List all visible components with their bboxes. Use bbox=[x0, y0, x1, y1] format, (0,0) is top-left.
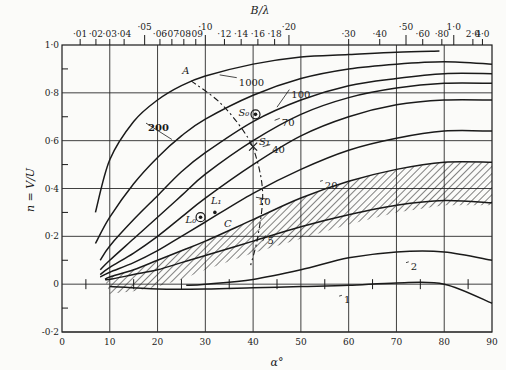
top-tick-label: ·12 bbox=[217, 29, 231, 39]
x-tick-label: 30 bbox=[200, 337, 212, 347]
x-tick-label: 80 bbox=[438, 337, 450, 347]
y-tick-label: 1·0 bbox=[45, 40, 60, 50]
x-axis-label: α° bbox=[271, 356, 284, 369]
top-tick-label: ·50 bbox=[399, 22, 414, 32]
top-tick-label: ·04 bbox=[117, 29, 132, 39]
marker-dot bbox=[213, 211, 217, 215]
x-tick-label: 50 bbox=[295, 337, 307, 347]
top-axis-label: B/λ bbox=[250, 4, 270, 17]
x-tick-label: 60 bbox=[343, 337, 355, 347]
label-leader bbox=[220, 75, 237, 78]
y-tick-label: 0·4 bbox=[45, 184, 60, 194]
x-tick-label: 0 bbox=[59, 337, 65, 347]
top-tick-label: ·14 bbox=[234, 29, 249, 39]
annotation-S₁: S₁ bbox=[259, 136, 270, 147]
top-tick-label: ·01 bbox=[73, 29, 87, 39]
label-leader bbox=[406, 262, 409, 263]
top-tick-label: ·10 bbox=[198, 22, 213, 32]
curve-label-5: 5 bbox=[267, 235, 273, 246]
top-tick-label: ·20 bbox=[282, 22, 297, 32]
top-tick-label: ·18 bbox=[267, 29, 282, 39]
top-tick-label: ·30 bbox=[342, 29, 357, 39]
curve-label-70: 70 bbox=[282, 117, 295, 128]
curve-label-100: 100 bbox=[291, 89, 310, 100]
label-leader bbox=[339, 295, 342, 296]
y-tick-label: -0·2 bbox=[42, 327, 59, 337]
curve-label-2: 2 bbox=[411, 261, 417, 272]
top-tick-label: ·60 bbox=[416, 29, 431, 39]
top-tick-label: 1·0 bbox=[447, 22, 462, 32]
x-tick-label: 70 bbox=[391, 337, 403, 347]
y-tick-label: 0·6 bbox=[45, 136, 60, 146]
annotation-L₁: L₁ bbox=[210, 195, 222, 206]
top-tick-label: ·03 bbox=[103, 29, 118, 39]
top-tick-label: ·02 bbox=[89, 29, 103, 39]
curve-label-200: 200 bbox=[148, 122, 169, 133]
x-tick-label: 40 bbox=[247, 337, 259, 347]
top-tick-label: ·05 bbox=[137, 22, 152, 32]
top-tick-label: ·40 bbox=[373, 29, 388, 39]
marker-dot bbox=[254, 113, 258, 117]
y-tick-label: 0·2 bbox=[45, 231, 59, 241]
annotation-S₀: S₀ bbox=[239, 107, 250, 118]
x-tick-label: 90 bbox=[486, 337, 498, 347]
curve-label-1: 1 bbox=[344, 294, 350, 305]
x-tick-label: 10 bbox=[104, 337, 116, 347]
top-tick-label: ·16 bbox=[251, 29, 266, 39]
label-leader bbox=[275, 118, 280, 120]
curve-label-10: 10 bbox=[258, 196, 271, 207]
top-tick-label: 4·0 bbox=[475, 29, 490, 39]
y-tick-label: 0·8 bbox=[45, 88, 60, 98]
chart: 0102030405060708090-0·200·20·40·60·81·0·… bbox=[0, 0, 506, 370]
x-tick-label: 20 bbox=[152, 337, 164, 347]
y-tick-label: 0 bbox=[53, 279, 59, 289]
curve-label-40: 40 bbox=[272, 144, 285, 155]
annotation-C: C bbox=[224, 218, 232, 229]
curve-label-20: 20 bbox=[325, 180, 338, 191]
curve-label-1000: 1000 bbox=[239, 77, 264, 88]
label-leader bbox=[320, 181, 323, 182]
annotation-A: A bbox=[181, 65, 189, 76]
marker-dot bbox=[199, 215, 203, 219]
annotation-L₀: L₀ bbox=[185, 214, 197, 225]
y-axis-label: n = V/U bbox=[24, 167, 37, 212]
